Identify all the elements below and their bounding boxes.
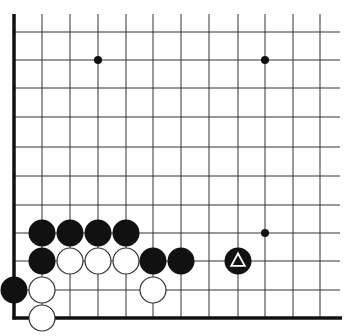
black-stone[interactable]: [168, 248, 195, 275]
black-stone-disc: [29, 248, 56, 275]
black-stone[interactable]: [29, 220, 56, 247]
black-stone[interactable]: [1, 277, 28, 304]
black-stone-disc: [225, 248, 252, 275]
white-stone-disc: [113, 248, 139, 274]
star-point: [261, 56, 269, 64]
black-stone-disc: [1, 277, 28, 304]
go-board: [0, 0, 344, 336]
black-stone[interactable]: [113, 220, 140, 247]
black-stone-disc: [57, 220, 84, 247]
black-stone[interactable]: [140, 248, 167, 275]
black-stone-disc: [29, 220, 56, 247]
black-stone[interactable]: [225, 248, 252, 275]
white-stone[interactable]: [57, 248, 83, 274]
white-stone[interactable]: [140, 277, 166, 303]
white-stone[interactable]: [113, 248, 139, 274]
black-stone[interactable]: [57, 220, 84, 247]
white-stone-disc: [140, 277, 166, 303]
black-stone-disc: [140, 248, 167, 275]
black-stone-disc: [113, 220, 140, 247]
white-stone-disc: [57, 248, 83, 274]
black-stone[interactable]: [85, 220, 112, 247]
white-stone[interactable]: [85, 248, 111, 274]
black-stone-disc: [85, 220, 112, 247]
black-stone[interactable]: [29, 248, 56, 275]
white-stone-disc: [85, 248, 111, 274]
white-stone[interactable]: [29, 305, 55, 331]
white-stone-disc: [29, 305, 55, 331]
star-point: [261, 229, 269, 237]
black-stone-disc: [168, 248, 195, 275]
star-point: [94, 56, 102, 64]
white-stone-disc: [29, 277, 55, 303]
white-stone[interactable]: [29, 277, 55, 303]
